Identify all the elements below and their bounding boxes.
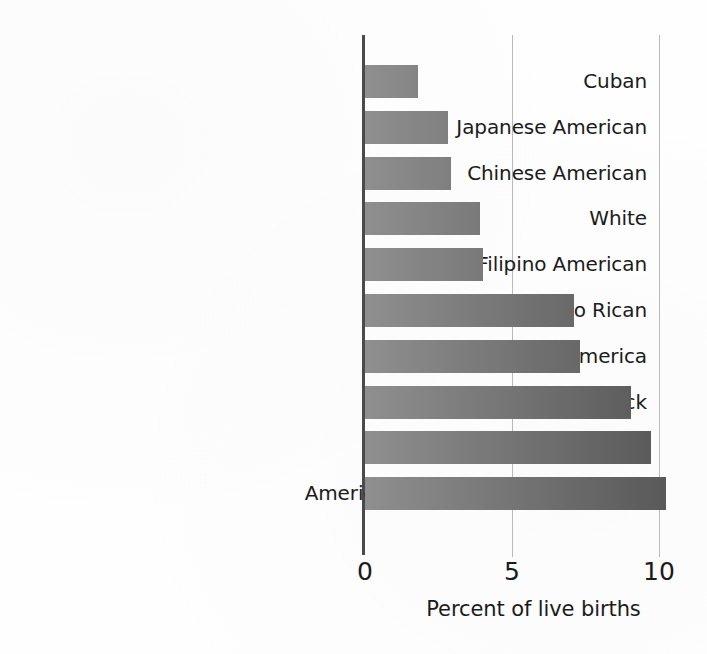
tick-label-0: 0 [335, 557, 395, 586]
bar-series: Cuban Japanese American Chinese American… [365, 65, 660, 523]
bar[interactable] [365, 386, 631, 419]
x-axis-tick-marks [365, 523, 660, 557]
bar-row: Mexican American [365, 431, 660, 477]
category-label: White [589, 202, 647, 235]
bar-row: Japanese American [365, 111, 660, 157]
bar[interactable] [365, 294, 574, 327]
plot-area: Cuban Japanese American Chinese American… [365, 35, 660, 555]
x-axis-tick-labels: 0 5 10 [365, 557, 660, 587]
bar-row: Black [365, 386, 660, 432]
bar-row: White [365, 202, 660, 248]
category-label: Filipino American [477, 248, 647, 281]
bar[interactable] [365, 477, 666, 510]
bar[interactable] [365, 340, 580, 373]
tick-label-10: 10 [629, 557, 689, 586]
tick-mark-0 [363, 523, 366, 555]
tick-label-5: 5 [482, 557, 542, 586]
x-axis-title: Percent of live births [380, 597, 687, 621]
category-label: Chinese American [467, 157, 647, 190]
bar-row: Cuban [365, 65, 660, 111]
bar[interactable] [365, 202, 480, 235]
bar-chart-figure: Cuban Japanese American Chinese American… [0, 0, 707, 654]
bar[interactable] [365, 111, 448, 144]
bar-row: Puerto Rican [365, 294, 660, 340]
tick-mark-10 [659, 528, 661, 557]
category-label: Japanese American [456, 111, 647, 144]
bar-row: Chinese American [365, 157, 660, 203]
bar-row: American Indian or Alaskan Native [365, 477, 660, 523]
bar[interactable] [365, 431, 651, 464]
category-label: Cuban [583, 65, 647, 98]
bar-row: Filipino American [365, 248, 660, 294]
tick-mark-5 [512, 528, 514, 557]
bar[interactable] [365, 65, 418, 98]
bar[interactable] [365, 248, 483, 281]
bar[interactable] [365, 157, 451, 190]
bar-row: Central and South America [365, 340, 660, 386]
